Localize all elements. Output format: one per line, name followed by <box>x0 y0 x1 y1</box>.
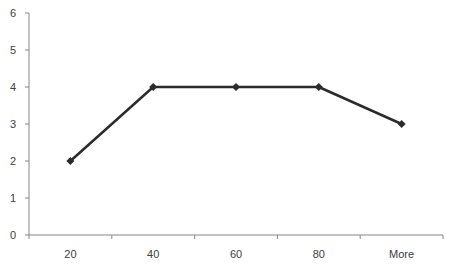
x-tick-label: 80 <box>313 248 325 260</box>
y-axis: 0123456 <box>10 7 29 241</box>
series-line <box>70 87 401 161</box>
y-tick-label: 3 <box>10 118 16 130</box>
diamond-marker-icon <box>315 83 323 91</box>
y-tick-label: 5 <box>10 44 16 56</box>
data-series <box>66 83 405 165</box>
x-tick-label: 60 <box>230 248 242 260</box>
diamond-marker-icon <box>398 120 406 128</box>
y-tick-label: 4 <box>10 81 16 93</box>
x-tick-label: More <box>389 248 414 260</box>
x-tick-label: 40 <box>147 248 159 260</box>
y-tick-label: 2 <box>10 155 16 167</box>
y-tick-label: 1 <box>10 192 16 204</box>
x-tick-label: 20 <box>64 248 76 260</box>
y-tick-label: 0 <box>10 229 16 241</box>
line-chart: 0123456 20406080More <box>0 0 451 271</box>
x-axis: 20406080More <box>29 235 443 260</box>
y-tick-label: 6 <box>10 7 16 19</box>
diamond-marker-icon <box>232 83 240 91</box>
